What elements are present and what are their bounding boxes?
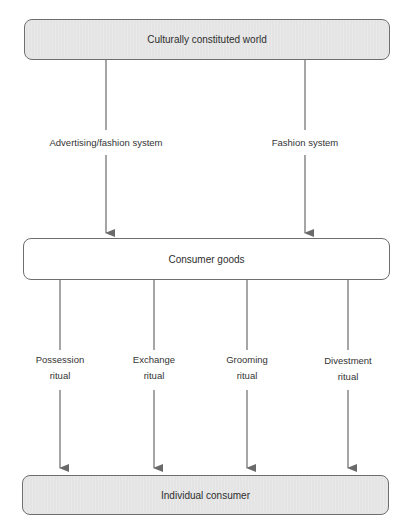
edge-label-line2: ritual — [226, 368, 268, 384]
edge-label-text: Advertising/fashion system — [50, 137, 163, 148]
edge-label-line2: ritual — [324, 369, 372, 385]
edge-label-text: Fashion system — [272, 137, 339, 148]
node-label: Consumer goods — [168, 254, 244, 265]
edge-label-line1: Grooming — [226, 352, 268, 368]
node-label: Culturally constituted world — [147, 34, 267, 45]
edge-label-line1: Possession — [36, 352, 85, 368]
edge-label-divestment-ritual: Divestment ritual — [324, 353, 372, 385]
edge-label-line1: Exchange — [133, 352, 175, 368]
node-individual-consumer: Individual consumer — [22, 475, 389, 515]
edge-label-line1: Divestment — [324, 353, 372, 369]
edge-label-line2: ritual — [133, 368, 175, 384]
edge-label-fashion-system: Fashion system — [272, 135, 339, 151]
edge-label-line2: ritual — [36, 368, 85, 384]
node-label: Individual consumer — [161, 490, 250, 501]
node-culturally-constituted-world: Culturally constituted world — [24, 19, 390, 60]
edge-label-grooming-ritual: Grooming ritual — [226, 352, 268, 384]
node-consumer-goods: Consumer goods — [23, 238, 390, 280]
edge-label-possession-ritual: Possession ritual — [36, 352, 85, 384]
edge-label-exchange-ritual: Exchange ritual — [133, 352, 175, 384]
edge-label-advertising-fashion-system: Advertising/fashion system — [50, 135, 163, 151]
